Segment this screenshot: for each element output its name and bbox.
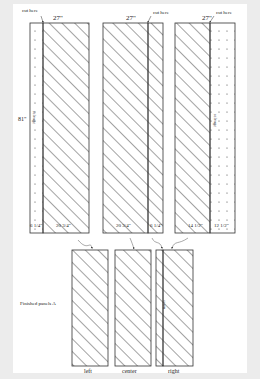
top-panel-3 <box>175 16 235 233</box>
fabric-hatched <box>175 23 210 233</box>
selvage-label: selvage <box>32 111 37 125</box>
cut-here-label: cut here <box>22 8 38 13</box>
panel-label-right: right <box>168 368 179 374</box>
connector-arrows <box>78 238 188 248</box>
top-panel-2 <box>103 16 163 233</box>
width-label: 27" <box>126 15 136 22</box>
fabric-hatched-narrow <box>148 23 163 233</box>
seam-label: seam <box>162 300 167 309</box>
dimension-label: 12 1/2" <box>214 223 229 228</box>
height-label: 81" <box>18 116 26 122</box>
dimension-label: 20 3/4" <box>116 223 131 228</box>
cut-here-label: cut here <box>216 10 232 15</box>
fabric-hatched <box>43 23 89 233</box>
selvage-strip-dotted <box>210 23 235 233</box>
width-label: 27" <box>202 15 212 22</box>
finished-panel-right <box>163 250 193 366</box>
dimension-label: 14 1/2" <box>188 223 203 228</box>
selvage-strip-dotted <box>30 23 43 233</box>
dimension-label: 20 3/4" <box>56 223 71 228</box>
arrow-icon <box>78 240 92 248</box>
arrow-icon <box>130 238 134 248</box>
finished-panel-left <box>72 250 108 366</box>
arrow-icon <box>152 238 162 248</box>
dimension-label: 6 1/4" <box>30 223 42 228</box>
fabric-hatched <box>103 23 148 233</box>
width-label: 27" <box>53 15 63 22</box>
arrow-icon <box>172 238 188 248</box>
finished-panel-center <box>115 250 151 366</box>
top-panel-1 <box>30 16 89 233</box>
dimension-label: 6 1/4" <box>150 223 162 228</box>
cut-arrow-icon <box>148 16 151 22</box>
cut-arrow-icon <box>41 16 43 22</box>
cutting-diagram <box>0 0 260 379</box>
cut-here-label: cut here <box>153 10 169 15</box>
panel-label-center: center <box>122 368 137 374</box>
finished-panels <box>72 250 193 366</box>
finished-panels-label: Finished panels A <box>20 301 56 306</box>
selvage-label: selvage <box>213 114 218 128</box>
panel-label-left: left <box>84 368 92 374</box>
